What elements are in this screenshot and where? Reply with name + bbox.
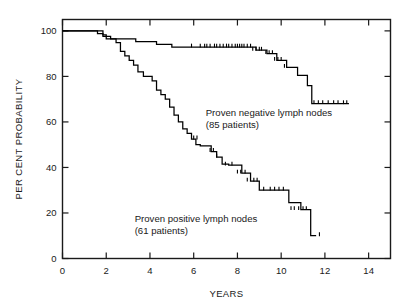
y-axis-title: PER CENT PROBABILITY: [13, 78, 24, 199]
y-axis-ticks: [63, 31, 391, 259]
x-tick-label-12: 12: [320, 265, 331, 276]
kaplan-meier-chart: 02468101214 020406080100 Proven negative…: [0, 0, 406, 306]
annotation-layer: Proven negative lymph nodes(85 patients)…: [135, 107, 333, 235]
x-tick-label-14: 14: [363, 265, 374, 276]
x-tick-label-6: 6: [191, 265, 196, 276]
positive-nodes-label-line1: Proven positive lymph nodes: [135, 213, 258, 224]
series-layer: [63, 31, 349, 236]
negative-nodes-label: Proven negative lymph nodes(85 patients): [206, 107, 333, 130]
series-positive-nodes: [63, 31, 320, 236]
survival-curve-figure: 02468101214 020406080100 Proven negative…: [0, 0, 406, 306]
x-tick-label-10: 10: [276, 265, 287, 276]
y-tick-label-100: 100: [41, 25, 57, 36]
x-tick-label-2: 2: [104, 265, 109, 276]
positive-nodes-label: Proven positive lymph nodes(61 patients): [135, 213, 258, 236]
curve-line: [63, 31, 349, 104]
censor-marks: [192, 44, 347, 104]
y-tick-label-40: 40: [46, 162, 57, 173]
curve-line: [63, 31, 317, 236]
y-tick-label-60: 60: [46, 116, 57, 127]
negative-nodes-label-line2: (85 patients): [206, 119, 259, 130]
x-axis-title: YEARS: [209, 288, 243, 299]
y-axis-tick-labels: 020406080100: [41, 25, 57, 264]
y-tick-label-20: 20: [46, 207, 57, 218]
x-tick-label-8: 8: [235, 265, 240, 276]
x-axis-tick-labels: 02468101214: [60, 265, 374, 276]
x-tick-label-0: 0: [60, 265, 65, 276]
negative-nodes-label-line1: Proven negative lymph nodes: [206, 107, 333, 118]
y-tick-label-80: 80: [46, 71, 57, 82]
y-tick-label-0: 0: [51, 253, 56, 264]
x-tick-label-4: 4: [147, 265, 152, 276]
series-negative-nodes: [63, 31, 349, 104]
positive-nodes-label-line2: (61 patients): [135, 225, 188, 236]
